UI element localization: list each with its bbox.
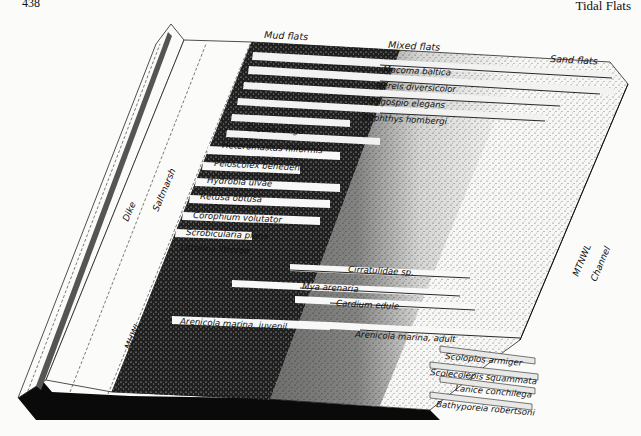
channel-label: Channel bbox=[589, 244, 613, 282]
zone-label-mud-flats: Mud flats bbox=[264, 29, 308, 42]
tidal-flat-block-diagram: Mud flats Mixed flats Sand flats Dike Sa… bbox=[0, 0, 641, 436]
mtnwl-label: MTNWL bbox=[571, 243, 593, 278]
